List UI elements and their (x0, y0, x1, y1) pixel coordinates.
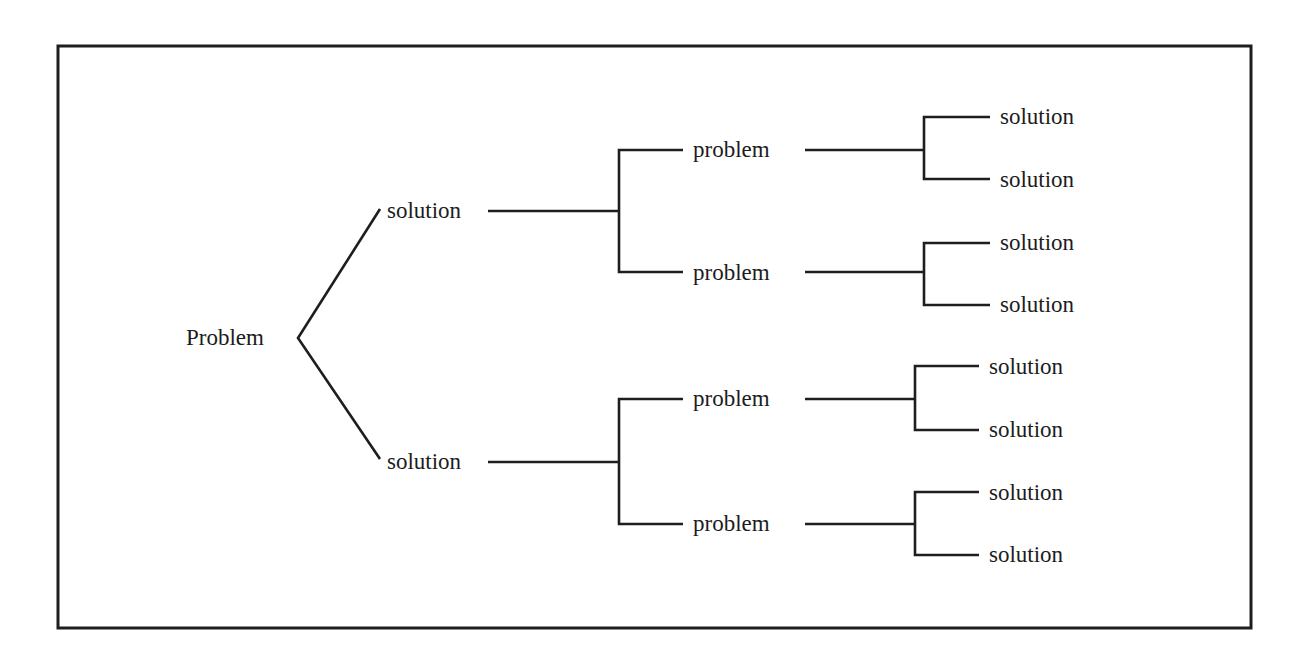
level3-solution-label: solution (989, 417, 1064, 442)
level3-solution-label: solution (1000, 230, 1075, 255)
level1-solution-label: solution (387, 449, 462, 474)
bracket-connector (915, 366, 979, 430)
level2-problem-label: problem (693, 511, 770, 536)
level2-problem-label: problem (693, 260, 770, 285)
problem-solution-tree-diagram: Problem solution solution problem proble… (0, 0, 1297, 668)
bracket-connector (619, 150, 683, 272)
bracket-connector (924, 243, 990, 305)
level3-solution-label: solution (989, 542, 1064, 567)
level3-solution-label: solution (1000, 167, 1075, 192)
root-branch-connector (298, 209, 380, 459)
level3-solution-label: solution (989, 480, 1064, 505)
level2-problem-label: problem (693, 137, 770, 162)
bracket-connector (924, 117, 990, 179)
bracket-connector (915, 492, 979, 555)
level2-problem-label: problem (693, 386, 770, 411)
level3-solution-label: solution (1000, 292, 1075, 317)
bracket-connector (619, 399, 683, 524)
root-problem-label: Problem (186, 325, 264, 350)
level1-solution-label: solution (387, 198, 462, 223)
level3-solution-label: solution (1000, 104, 1075, 129)
level3-solution-label: solution (989, 354, 1064, 379)
